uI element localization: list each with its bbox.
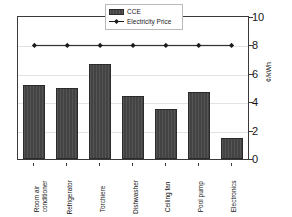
x-ticklabel-text: Refrigerator [66, 180, 74, 214]
y-ticklabel-4: 4 [252, 97, 268, 108]
x-ticklabel-text: Electronics [231, 179, 239, 212]
x-ticklabel-torchiere: Torchiere [83, 163, 116, 217]
chart-container: CCE Electricity Price 1086420 ¢/kWh Room… [0, 0, 292, 217]
x-tickmark [231, 163, 232, 166]
x-ticklabel-text: Pool pump [198, 179, 206, 212]
y-axis-ticklabels: 1086420 [252, 0, 268, 217]
bar-pool-pump[interactable] [182, 17, 215, 159]
x-ticklabel-dishwasher: Dishwasher [116, 163, 149, 217]
bar-swatch-icon [109, 9, 124, 15]
y-axis-title: ¢/kWh [265, 62, 272, 82]
y-tickmark [249, 159, 253, 160]
bar-refrigerator[interactable] [51, 17, 84, 159]
x-ticklabel-electronics: Electronics [214, 163, 247, 217]
x-tickmark [198, 163, 199, 166]
bar-series-cce [18, 17, 248, 159]
y-ticklabel-8: 8 [252, 40, 268, 51]
bar-rect [56, 88, 78, 159]
chart-legend: CCE Electricity Price [105, 4, 183, 30]
y-tickmark [249, 45, 253, 46]
x-ticklabel-text: Dishwasher [132, 180, 140, 214]
y-tickmark [249, 102, 253, 103]
legend-label-electricity-price: Electricity Price [127, 18, 171, 26]
x-tickmark [33, 163, 34, 166]
bar-torchiere[interactable] [84, 17, 117, 159]
bar-rect [122, 96, 144, 159]
line-marker-icon [109, 19, 124, 25]
bar-rect [188, 92, 210, 159]
bar-rect [23, 85, 45, 159]
legend-item-cce: CCE [109, 7, 179, 17]
x-ticklabel-room-air-conditioner: Room air conditioner [17, 163, 50, 217]
x-tickmark [132, 163, 133, 166]
x-tickmark [99, 163, 100, 166]
y-tickmark [249, 17, 253, 18]
y-tickmark [249, 131, 253, 132]
x-axis-ticklabels: Room air conditionerRefrigeratorTorchier… [17, 163, 249, 217]
x-ticklabel-text: Torchiere [99, 179, 107, 212]
plot-area [17, 16, 249, 160]
x-ticklabel-text: Ceiling fan [165, 179, 173, 212]
y-ticklabel-10: 10 [252, 12, 268, 23]
bar-electronics[interactable] [215, 17, 248, 159]
y-ticklabel-2: 2 [252, 125, 268, 136]
x-ticklabel-ceiling-fan: Ceiling fan [148, 163, 181, 217]
bar-dishwasher[interactable] [117, 17, 150, 159]
bar-ceiling-fan[interactable] [149, 17, 182, 159]
y-tickmark [249, 74, 253, 75]
legend-item-electricity-price: Electricity Price [109, 17, 179, 27]
x-ticklabel-text: Room air conditioner [33, 179, 48, 212]
legend-label-cce: CCE [127, 8, 141, 16]
bar-room-air-conditioner[interactable] [18, 17, 51, 159]
bar-rect [221, 138, 243, 159]
x-tickmark [66, 163, 67, 166]
y-ticklabel-0: 0 [252, 154, 268, 165]
x-tickmark [165, 163, 166, 166]
bar-rect [155, 109, 177, 159]
bar-rect [89, 64, 111, 159]
x-ticklabel-refrigerator: Refrigerator [50, 163, 83, 217]
x-ticklabel-pool-pump: Pool pump [181, 163, 214, 217]
